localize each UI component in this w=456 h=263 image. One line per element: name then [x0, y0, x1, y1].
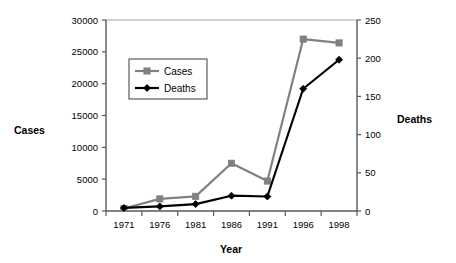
square-marker	[300, 36, 306, 42]
right-tick-label: 200	[365, 53, 381, 64]
legend-label: Cases	[164, 66, 192, 77]
x-tick-label: 1991	[257, 219, 278, 230]
square-marker	[157, 196, 163, 202]
legend-label: Deaths	[164, 83, 196, 94]
left-axis-title: Cases	[14, 124, 45, 136]
left-tick-label: 5000	[77, 174, 98, 185]
right-tick-label: 0	[365, 206, 370, 217]
left-tick-label: 30000	[72, 15, 98, 26]
chart-figure: 050001000015000200002500030000 050100150…	[0, 0, 456, 263]
right-tick-label: 100	[365, 129, 381, 140]
left-tick-label: 20000	[72, 78, 98, 89]
square-marker	[228, 160, 234, 166]
square-marker	[193, 193, 199, 199]
x-tick-label: 1976	[149, 219, 170, 230]
x-tick-label: 1981	[185, 219, 206, 230]
x-axis-title: Year	[220, 243, 242, 255]
x-tick-label: 1986	[221, 219, 242, 230]
right-tick-label: 150	[365, 91, 381, 102]
left-tick-label: 0	[93, 206, 98, 217]
right-axis-title: Deaths	[397, 113, 432, 125]
left-tick-label: 15000	[72, 110, 98, 121]
x-tick-label: 1996	[293, 219, 314, 230]
chart-legend: CasesDeaths	[129, 59, 207, 99]
left-tick-label: 10000	[72, 142, 98, 153]
dual-axis-line-chart: 050001000015000200002500030000 050100150…	[0, 0, 456, 263]
square-marker	[264, 178, 270, 184]
x-tick-label: 1971	[113, 219, 134, 230]
left-tick-label: 25000	[72, 46, 98, 57]
square-marker	[144, 68, 150, 74]
right-tick-label: 50	[365, 167, 376, 178]
right-tick-label: 250	[365, 15, 381, 26]
square-marker	[336, 40, 342, 46]
x-tick-label: 1998	[329, 219, 350, 230]
